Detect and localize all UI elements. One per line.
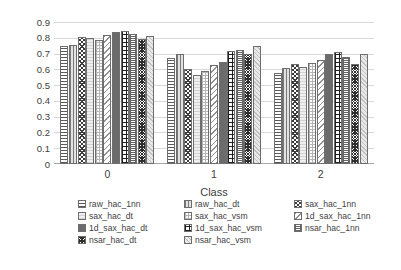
bar-nsar_hac_vsm-class-1 [253,46,261,164]
legend-item-sax_hac_dt[interactable]: sax_hac_dt [78,210,184,222]
bar-sax_hac_1nn-class-2 [291,64,299,165]
legend-item-nsar_hac_vsm[interactable]: nsar_hac_vsm [184,234,294,246]
legend-label: raw_hac_dt [195,200,239,209]
bar-nsar_hac_vsm-class-2 [360,54,368,164]
x-axis-tick-label-2: 2 [301,168,341,180]
y-axis-tick-label: 0.5 [24,81,50,90]
legend-item-nsar_hac_dt[interactable]: nsar_hac_dt [78,234,184,246]
legend-label: sax_hac_vsm [195,212,248,221]
bar-raw_hac_1nn-class-2 [274,73,282,165]
legend-label: 1d_sax_hac_dt [89,224,147,233]
bar-1d_sax_hac_dt-class-0 [112,32,120,164]
bar-raw_hac_1nn-class-0 [60,46,68,164]
legend-item-raw_hac_1nn[interactable]: raw_hac_1nn [78,198,184,210]
bar-1d_sax_hac_vsm-class-1 [227,51,235,164]
legend-item-1d_sax_hac_1nn[interactable]: 1d_sax_hac_1nn [294,210,394,222]
bar-1d_sax_hac_vsm-class-2 [334,52,342,164]
legend-label: nsar_hac_1nn [305,224,359,233]
legend-swatch-icon [184,212,192,220]
x-axis-tick-label-0: 0 [87,168,127,180]
bar-1d_sax_hac_1nn-class-2 [317,60,325,164]
x-axis-title: Class [54,186,374,198]
legend-label: raw_hac_1nn [89,200,141,209]
y-axis-tick-label: 0.1 [24,144,50,153]
legend-item-sax_hac_1nn[interactable]: sax_hac_1nn [294,198,394,210]
chart-legend: raw_hac_1nnraw_hac_dtsax_hac_1nnsax_hac_… [78,198,388,246]
bar-1d_sax_hac_1nn-class-1 [210,65,218,164]
legend-swatch-icon [184,236,192,244]
bar-raw_hac_dt-class-0 [69,45,77,164]
legend-item-sax_hac_vsm[interactable]: sax_hac_vsm [184,210,294,222]
bar-sax_hac_1nn-class-1 [184,69,192,164]
y-axis-tick-label: 0.6 [24,65,50,74]
x-axis-tick-label-1: 1 [194,168,234,180]
legend-label: nsar_hac_dt [89,236,136,245]
bar-nsar_hac_dt-class-1 [244,54,252,164]
bar-nsar_hac_1nn-class-0 [129,34,137,164]
bar-sax_hac_dt-class-1 [193,75,201,164]
bar-sax_hac_vsm-class-1 [201,71,209,164]
bar-sax_hac_dt-class-2 [299,67,307,164]
legend-label: nsar_hac_vsm [195,236,251,245]
y-axis-tick-labels: 00.10.20.30.40.50.60.70.80.9 [22,17,50,169]
bar-sax_hac_vsm-class-2 [308,63,316,164]
bar-nsar_hac_1nn-class-2 [342,57,350,164]
bar-nsar_hac_1nn-class-1 [236,50,244,164]
legend-swatch-icon [184,224,192,232]
bar-nsar_hac_dt-class-0 [138,39,146,164]
legend-label: sax_hac_dt [89,212,133,221]
legend-item-nsar_hac_1nn[interactable]: nsar_hac_1nn [294,222,394,234]
bar-raw_hac_1nn-class-1 [167,58,175,164]
bar-sax_hac_dt-class-0 [86,38,94,164]
y-axis-tick-label: 0.3 [24,112,50,121]
legend-label: 1d_sax_hac_1nn [305,212,370,221]
recall-bar-chart: Recall 00.10.20.30.40.50.60.70.80.9 012 … [0,0,401,270]
legend-swatch-icon [294,200,302,208]
legend-label: sax_hac_1nn [305,200,356,209]
legend-swatch-icon [78,212,86,220]
bar-sax_hac_1nn-class-0 [78,37,86,164]
bar-raw_hac_dt-class-2 [282,68,290,164]
plot-area: 012 Class [54,22,374,164]
y-axis-tick-label: 0.2 [24,128,50,137]
y-axis-tick-label: 0.9 [24,18,50,27]
legend-swatch-icon [294,224,302,232]
bar-1d_sax_hac_1nn-class-0 [103,35,111,164]
bar-1d_sax_hac_vsm-class-0 [121,31,129,164]
bar-1d_sax_hac_dt-class-1 [219,62,227,164]
bar-1d_sax_hac_dt-class-2 [325,54,333,164]
legend-swatch-icon [294,212,302,220]
legend-swatch-icon [78,224,86,232]
legend-swatch-icon [184,200,192,208]
bar-group-2 [274,22,368,164]
legend-item-1d_sax_hac_vsm[interactable]: 1d_sax_hac_vsm [184,222,294,234]
legend-item-1d_sax_hac_dt[interactable]: 1d_sax_hac_dt [78,222,184,234]
bar-raw_hac_dt-class-1 [176,54,184,164]
legend-label: 1d_sax_hac_vsm [195,224,262,233]
bar-group-1 [167,22,261,164]
y-axis-tick-label: 0.7 [24,49,50,58]
y-axis-tick-label: 0.8 [24,33,50,42]
bar-sax_hac_vsm-class-0 [95,40,103,164]
y-axis-tick-label: 0.4 [24,96,50,105]
y-axis-tick-label: 0 [24,160,50,169]
legend-swatch-icon [78,236,86,244]
bar-nsar_hac_vsm-class-0 [146,36,154,164]
legend-item-raw_hac_dt[interactable]: raw_hac_dt [184,198,294,210]
bar-group-0 [60,22,154,164]
bar-nsar_hac_dt-class-2 [351,64,359,164]
legend-swatch-icon [78,200,86,208]
